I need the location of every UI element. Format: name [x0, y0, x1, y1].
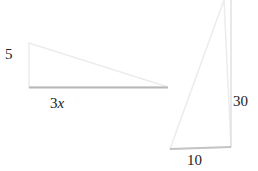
large-triangle	[170, 0, 231, 149]
small-triangle	[29, 43, 168, 88]
coefficient: 3	[50, 95, 58, 111]
side-label-10: 10	[187, 153, 202, 168]
side-label-5: 5	[5, 47, 13, 62]
side-label-3x: 3x	[50, 96, 64, 111]
variable-x: x	[58, 95, 65, 111]
diagram-canvas	[0, 0, 258, 171]
side-label-30: 30	[233, 94, 248, 109]
